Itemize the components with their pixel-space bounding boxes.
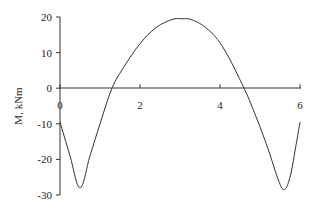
y-tick-label: 0	[47, 82, 53, 94]
y-tick-label: 20	[41, 11, 53, 23]
y-axis-title: M, kNm	[12, 87, 24, 125]
y-tick-label: 10	[41, 47, 53, 59]
moment-chart: 20100-10-20-30 0246 M, kNm	[0, 0, 319, 210]
x-tick-label: 6	[297, 99, 303, 111]
y-tick-label: -30	[37, 189, 52, 201]
x-tick-label: 2	[137, 99, 143, 111]
y-tick-label: -20	[37, 153, 52, 165]
x-tick-label: 4	[217, 99, 223, 111]
y-tick-label: -10	[37, 118, 52, 130]
x-tick-label: 0	[57, 99, 63, 111]
moment-curve	[60, 19, 300, 190]
